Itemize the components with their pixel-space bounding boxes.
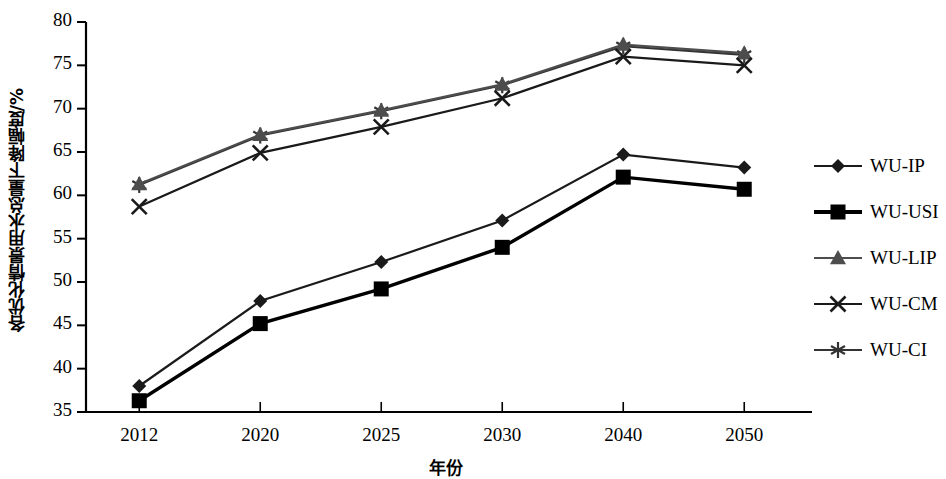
axis-lines <box>86 22 812 412</box>
legend-label: WU-LIP <box>864 247 936 269</box>
star-marker <box>812 338 864 362</box>
x-axis-ticks <box>139 402 744 412</box>
x-axis-tick-label: 2030 <box>462 424 542 446</box>
cross-marker <box>132 199 147 214</box>
legend-label: WU-IP <box>864 155 925 177</box>
y-axis-tick-label: 75 <box>28 52 72 74</box>
y-axis-tick-label: 55 <box>28 226 72 248</box>
square-marker <box>831 205 846 220</box>
square-marker <box>616 170 631 185</box>
legend-item-wu-cm[interactable]: WU-CM <box>812 281 946 327</box>
x-axis-label: 年份 <box>429 454 463 479</box>
y-axis-tick-label: 80 <box>28 9 72 31</box>
diamond-marker <box>812 154 864 178</box>
series-line <box>139 57 744 207</box>
y-axis-tick-label: 50 <box>28 269 72 291</box>
square-marker <box>132 393 147 408</box>
diamond-marker <box>495 213 509 227</box>
diamond-marker <box>253 294 267 308</box>
series-line <box>139 46 744 185</box>
y-axis-tick-label: 40 <box>28 356 72 378</box>
diamond-marker <box>616 148 630 162</box>
diamond-marker <box>132 379 146 393</box>
chart-legend: WU-IPWU-USIWU-LIPWU-CMWU-CI <box>812 143 946 373</box>
cross-marker <box>374 119 389 134</box>
series-line <box>139 155 744 386</box>
square-marker <box>374 281 389 296</box>
x-axis-tick-label: 2040 <box>583 424 663 446</box>
square-marker <box>812 200 864 224</box>
legend-item-wu-ip[interactable]: WU-IP <box>812 143 946 189</box>
series-layer <box>131 37 752 409</box>
diamond-marker <box>831 159 845 173</box>
legend-item-wu-usi[interactable]: WU-USI <box>812 189 946 235</box>
series-wu-usi <box>132 170 752 409</box>
y-axis-tick-label: 35 <box>28 399 72 421</box>
x-axis-tick-label: 2012 <box>99 424 179 446</box>
cross-marker <box>812 292 864 316</box>
legend-label: WU-USI <box>864 201 939 223</box>
y-axis-tick-label: 70 <box>28 96 72 118</box>
y-axis-tick-label: 45 <box>28 312 72 334</box>
series-wu-cm <box>132 49 752 214</box>
diamond-marker <box>374 255 388 269</box>
square-marker <box>495 240 510 255</box>
square-marker <box>253 316 268 331</box>
y-axis-tick-label: 60 <box>28 182 72 204</box>
legend-item-wu-lip[interactable]: WU-LIP <box>812 235 946 281</box>
legend-item-wu-ci[interactable]: WU-CI <box>812 327 946 373</box>
series-wu-ci <box>132 38 751 193</box>
series-line <box>139 177 744 401</box>
diamond-marker <box>737 161 751 175</box>
x-axis-tick-label: 2050 <box>704 424 784 446</box>
y-axis-tick-label: 65 <box>28 139 72 161</box>
x-axis-tick-label: 2025 <box>341 424 421 446</box>
cross-marker <box>253 145 268 160</box>
triangle-marker <box>812 246 864 270</box>
square-marker <box>737 182 752 197</box>
series-wu-ip <box>132 148 751 393</box>
y-axis-ticks <box>77 22 86 412</box>
series-line <box>139 45 744 185</box>
legend-label: WU-CI <box>864 339 927 361</box>
x-axis-tick-label: 2020 <box>220 424 300 446</box>
legend-label: WU-CM <box>864 293 938 315</box>
